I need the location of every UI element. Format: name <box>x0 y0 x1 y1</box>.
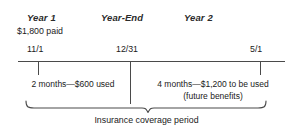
coverage-period-caption: Insurance coverage period <box>0 116 293 125</box>
period-label-year-one: Year 1 <box>27 13 56 23</box>
coverage-brace <box>0 100 293 114</box>
tick-mark-start <box>38 62 39 75</box>
coverage-brace-icon <box>0 100 293 114</box>
date-label-end: 5/1 <box>250 45 262 54</box>
amount-paid-note: $1,800 paid <box>17 27 63 36</box>
tick-mark-end <box>260 62 261 75</box>
timeline-axis <box>18 61 285 62</box>
segment-label-future: 4 months—$1,200 to be used <box>138 80 288 89</box>
insurance-timeline-diagram: Year 1 Year-End Year 2 $1,800 paid 11/1 … <box>0 0 293 128</box>
segment-label-expired: 2 months—$600 used <box>22 80 124 89</box>
date-label-start: 11/1 <box>27 45 43 54</box>
tick-mark-year-end-divider <box>130 62 131 104</box>
date-label-year-end: 12/31 <box>116 45 138 54</box>
period-label-year-end: Year-End <box>101 13 143 23</box>
period-label-year-two: Year 2 <box>184 13 213 23</box>
